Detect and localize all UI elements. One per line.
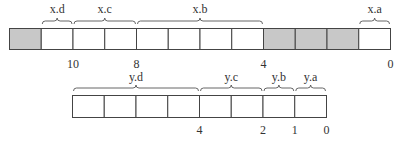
field-brace xyxy=(74,18,136,24)
field-label: x.b xyxy=(193,2,208,16)
bit-cell xyxy=(231,96,263,118)
bit-index-label: 10 xyxy=(67,57,79,71)
unused-bit-cell xyxy=(327,29,359,50)
field-label: x.c xyxy=(98,2,112,16)
field-brace xyxy=(296,85,326,91)
bit-cell xyxy=(137,29,169,50)
bit-cell xyxy=(104,96,136,118)
field-label: y.a xyxy=(304,70,318,84)
register-x: x.dx.cx.bx.a10840 xyxy=(10,2,394,71)
bit-cell xyxy=(73,29,105,50)
bit-cell xyxy=(263,96,295,118)
register-y: y.dy.cy.by.a4210 xyxy=(73,70,330,137)
bit-index-label: 0 xyxy=(324,123,330,137)
bit-index-label: 4 xyxy=(197,123,203,137)
field-label: y.d xyxy=(129,70,143,84)
bit-cell xyxy=(168,96,200,118)
field-brace xyxy=(42,18,72,24)
bit-cell xyxy=(136,96,168,118)
bit-cell xyxy=(41,29,73,50)
bit-cell xyxy=(168,29,200,50)
unused-bit-cell xyxy=(264,29,296,50)
bit-cell xyxy=(359,29,391,50)
field-brace xyxy=(360,18,390,24)
field-brace xyxy=(74,85,199,91)
bit-cell xyxy=(200,96,232,118)
field-label: y.b xyxy=(272,70,286,84)
bit-cell xyxy=(295,96,327,118)
bit-cell xyxy=(105,29,137,50)
bit-index-label: 1 xyxy=(292,123,298,137)
field-brace xyxy=(138,18,263,24)
bitfield-diagram: x.dx.cx.bx.a10840 y.dy.cy.by.a4210 xyxy=(0,0,394,141)
field-label: x.a xyxy=(367,2,382,16)
bit-index-label: 8 xyxy=(134,57,140,71)
bit-index-label: 4 xyxy=(261,57,267,71)
unused-bit-cell xyxy=(295,29,327,50)
bit-cell xyxy=(73,96,105,118)
field-label: y.c xyxy=(224,70,238,84)
bit-index-label: 0 xyxy=(388,57,394,71)
bit-cell xyxy=(200,29,232,50)
bit-index-label: 2 xyxy=(260,123,266,137)
unused-bit-cell xyxy=(10,29,42,50)
bit-cell xyxy=(232,29,264,50)
field-brace xyxy=(264,85,294,91)
field-brace xyxy=(201,85,263,91)
field-label: x.d xyxy=(50,2,65,16)
